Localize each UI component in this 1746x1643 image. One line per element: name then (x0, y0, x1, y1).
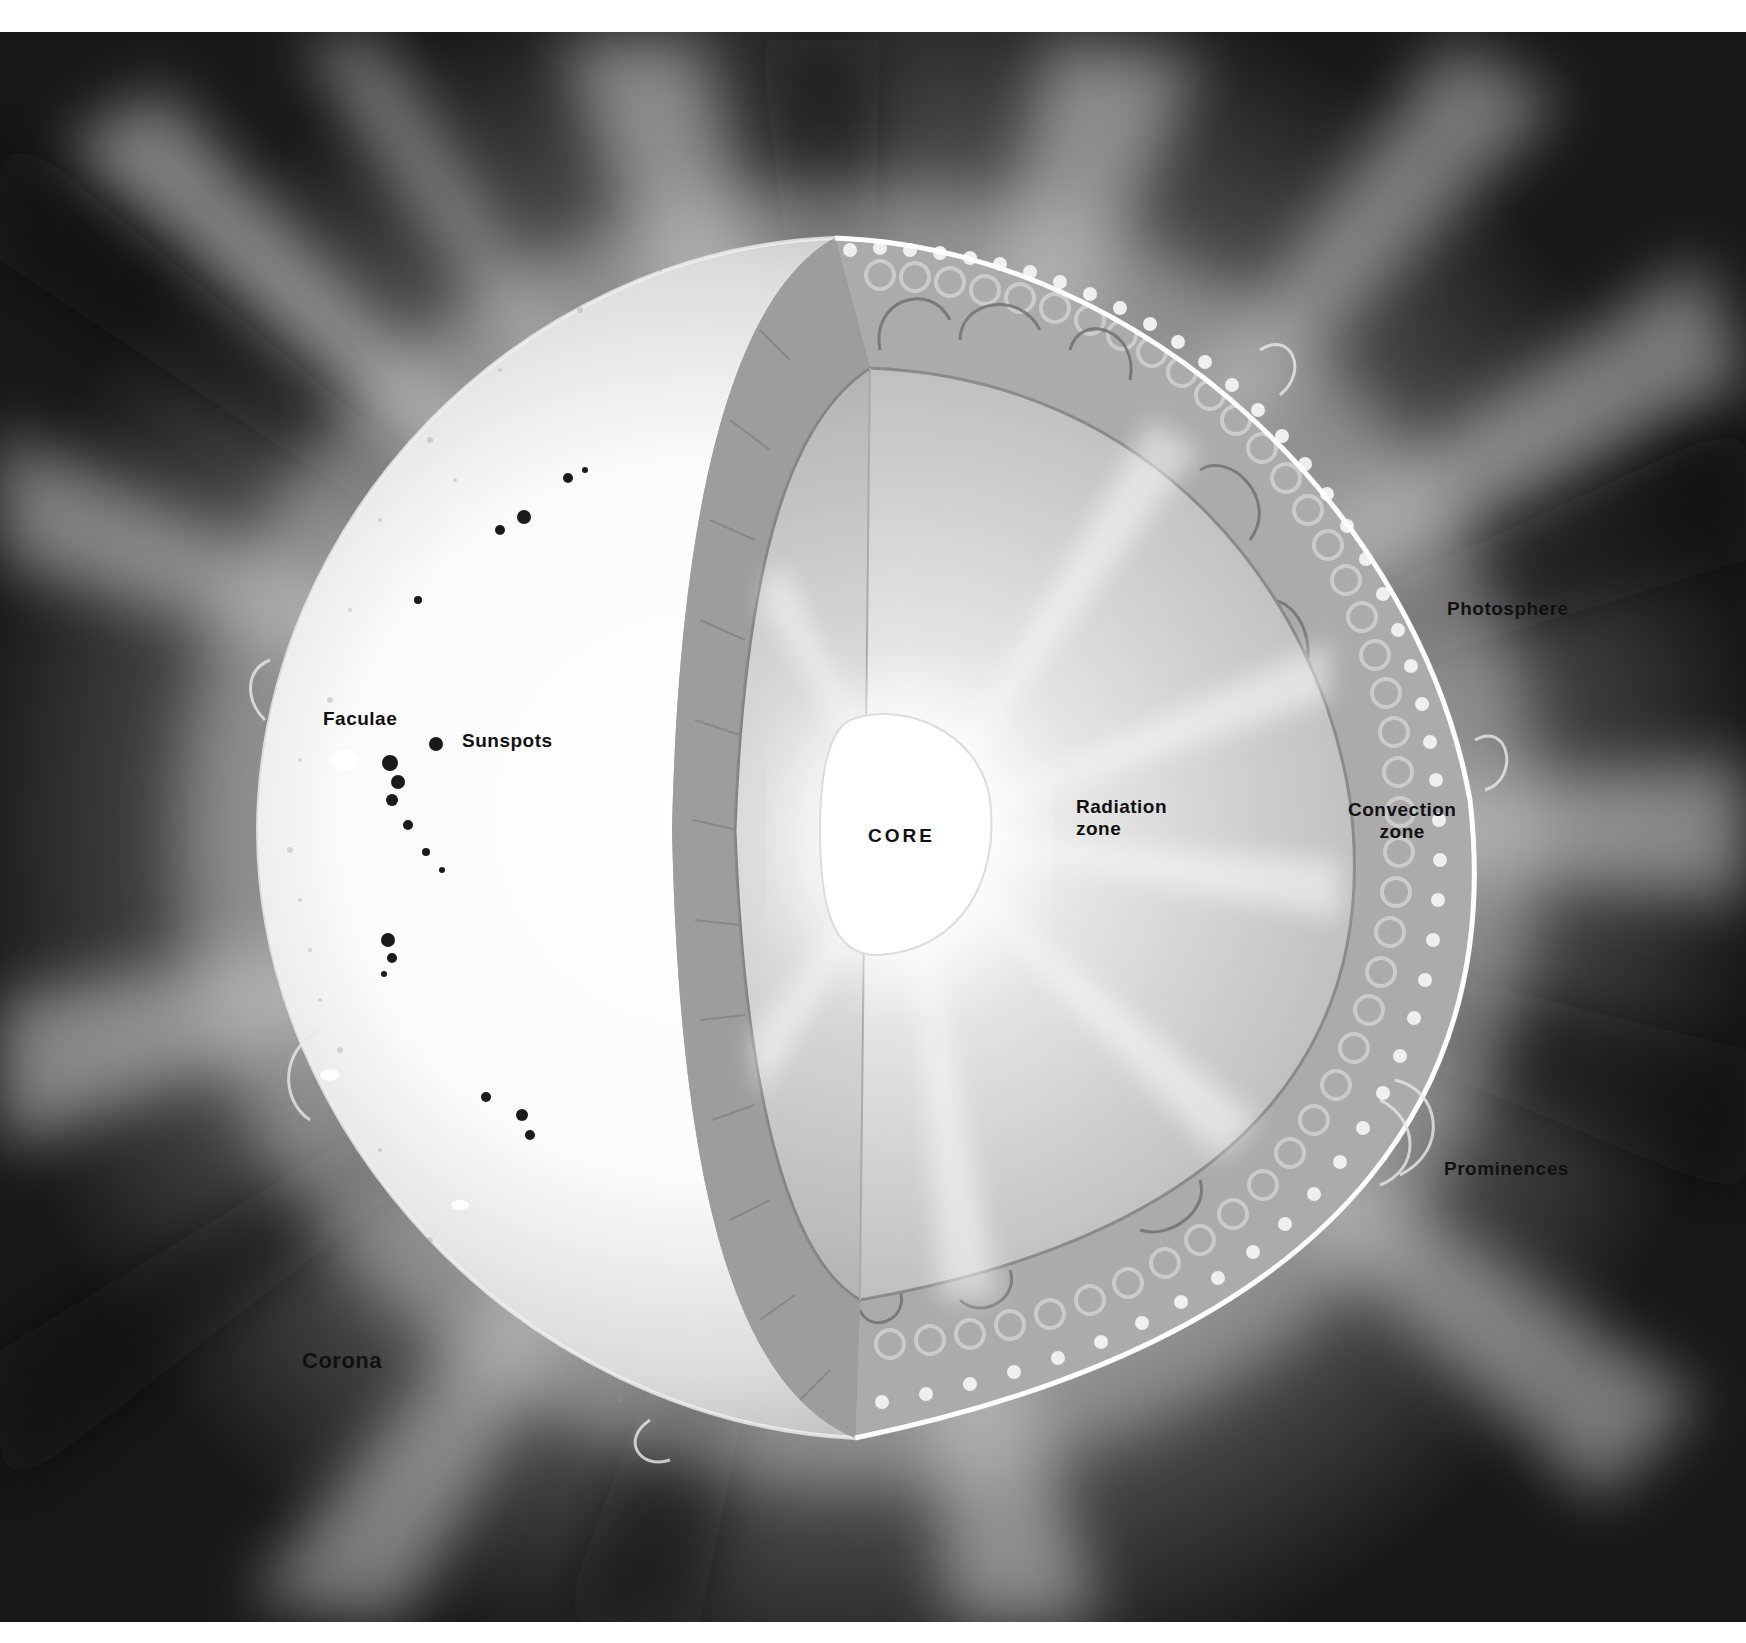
label-radiation-zone-line2: zone (1076, 818, 1167, 840)
label-corona: Corona (302, 1348, 382, 1373)
label-photosphere: Photosphere (1447, 598, 1569, 620)
label-core: CORE (868, 825, 935, 847)
label-faculae: Faculae (323, 708, 397, 730)
label-radiation-zone: Radiation zone (1076, 796, 1167, 840)
label-radiation-zone-line1: Radiation (1076, 796, 1167, 818)
label-convection-zone: Convection zone (1348, 799, 1456, 843)
sun-diagram: Faculae Sunspots Photosphere CORE Radiat… (0, 32, 1746, 1622)
label-convection-zone-line1: Convection (1348, 799, 1456, 821)
label-sunspots: Sunspots (462, 730, 553, 752)
label-prominences: Prominences (1444, 1158, 1569, 1180)
label-convection-zone-line2: zone (1348, 821, 1456, 843)
